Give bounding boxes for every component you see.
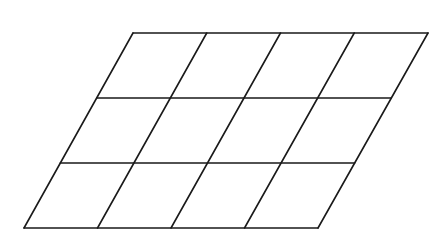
left-edge — [24, 33, 133, 228]
parallelogram-grid — [0, 0, 446, 245]
diagram-canvas — [0, 0, 446, 245]
right-edge — [318, 33, 428, 228]
slanted-lines — [24, 33, 428, 228]
column-divider — [171, 33, 281, 228]
column-divider — [245, 33, 355, 228]
column-divider — [98, 33, 207, 228]
